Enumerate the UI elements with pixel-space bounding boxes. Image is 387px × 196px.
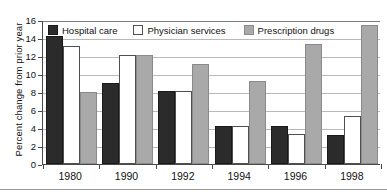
x-tick-label-1998: 1998 — [322, 170, 382, 182]
legend-swatch-hospital-icon — [48, 25, 58, 35]
bar-1992-hospital — [158, 91, 175, 164]
bar-group-1996 — [268, 21, 324, 164]
x-tick-mark-1 — [99, 164, 100, 169]
bar-1994-drugs — [249, 81, 266, 164]
bar-chart-figure: Percent change from prior year 024681012… — [0, 0, 387, 196]
bar-1990-hospital — [102, 83, 119, 164]
x-tick-label-1996: 1996 — [266, 170, 326, 182]
bar-1998-drugs — [361, 25, 378, 164]
bar-group-1990 — [99, 21, 155, 164]
legend-item-drugs: Prescription drugs — [244, 25, 335, 36]
legend-item-hospital: Hospital care — [48, 25, 117, 36]
x-tick-mark-5 — [325, 164, 326, 169]
x-tick-mark-0 — [43, 164, 44, 169]
x-tick-mark-4 — [268, 164, 269, 169]
bar-1980-hospital — [46, 36, 63, 164]
chart-legend: Hospital carePhysician servicesPrescript… — [48, 22, 334, 38]
x-tick-mark-end — [381, 164, 382, 169]
x-tick-mark-2 — [156, 164, 157, 169]
bar-1994-hospital — [215, 126, 232, 164]
legend-item-physician: Physician services — [133, 25, 225, 36]
bars-layer — [43, 21, 380, 164]
plot-area — [42, 21, 380, 165]
legend-label-physician: Physician services — [147, 25, 225, 36]
y-tick-label-2: 2 — [14, 142, 36, 152]
y-tick-label-8: 8 — [14, 88, 36, 98]
y-tick-label-4: 4 — [14, 124, 36, 134]
bar-1996-hospital — [271, 126, 288, 164]
bar-1992-drugs — [192, 64, 209, 164]
x-tick-mark-3 — [212, 164, 213, 169]
bar-1990-drugs — [136, 55, 153, 164]
bar-1998-physician — [344, 116, 361, 164]
y-tick-label-6: 6 — [14, 106, 36, 116]
page-bottom-rule — [0, 189, 387, 190]
legend-label-drugs: Prescription drugs — [258, 25, 335, 36]
bar-1996-physician — [288, 134, 305, 164]
bar-1994-physician — [232, 126, 249, 164]
bar-1980-drugs — [80, 92, 97, 164]
y-tick-label-0: 0 — [14, 160, 36, 170]
y-tick-mark-0 — [38, 165, 42, 166]
bar-group-1980 — [43, 21, 99, 164]
bar-1996-drugs — [305, 44, 322, 164]
bar-group-1992 — [156, 21, 212, 164]
bar-1990-physician — [119, 55, 136, 164]
bar-1998-hospital — [327, 135, 344, 164]
legend-label-hospital: Hospital care — [62, 25, 117, 36]
legend-swatch-physician-icon — [133, 25, 143, 35]
bar-group-1994 — [212, 21, 268, 164]
bar-1980-physician — [63, 46, 80, 164]
y-tick-label-12: 12 — [14, 52, 36, 62]
x-tick-label-1994: 1994 — [209, 170, 269, 182]
bar-group-1998 — [325, 21, 381, 164]
x-tick-label-1980: 1980 — [40, 170, 100, 182]
x-tick-label-1992: 1992 — [153, 170, 213, 182]
y-tick-label-10: 10 — [14, 70, 36, 80]
y-tick-label-14: 14 — [14, 34, 36, 44]
legend-swatch-drugs-icon — [244, 25, 254, 35]
x-tick-label-1990: 1990 — [97, 170, 157, 182]
bar-1992-physician — [175, 91, 192, 164]
y-tick-label-16: 16 — [14, 16, 36, 26]
